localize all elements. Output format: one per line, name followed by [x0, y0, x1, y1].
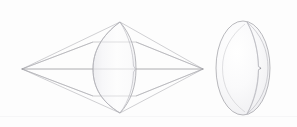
- ellipsoid-body: [216, 21, 270, 115]
- figure-svg: [0, 0, 297, 127]
- geometry-figure-canvas: Lens solid — wireframe projection view a…: [0, 0, 297, 127]
- left-apex-vertex: [21, 68, 22, 69]
- shaded-front-view: [216, 21, 270, 115]
- ellipsoid-notch-vertex: [260, 68, 261, 69]
- wireframe-projection-view: [21, 22, 203, 113]
- right-apex-vertex: [202, 68, 203, 69]
- lens-solid-body: [93, 22, 136, 113]
